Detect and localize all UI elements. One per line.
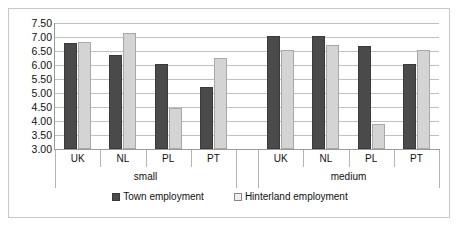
y-tick-label: 4.50: [19, 102, 52, 112]
bar-town-medium-PT: [403, 64, 416, 149]
bar-hinterland-small-UK: [78, 42, 91, 149]
y-tick-label: 6.00: [19, 60, 52, 70]
y-tick-label: 5.00: [19, 88, 52, 98]
group-separator: [236, 150, 237, 188]
group-separator: [439, 150, 440, 188]
y-tick-label: 7.50: [19, 18, 52, 28]
bar-town-small-PT: [200, 87, 213, 149]
y-tick-label: 6.50: [19, 46, 52, 56]
y-axis: 7.507.006.506.005.505.004.504.003.503.00: [19, 23, 52, 149]
category-label-small-NL: NL: [100, 152, 145, 165]
legend-label-town: Town employment: [123, 191, 204, 202]
bar-town-medium-UK: [267, 36, 280, 149]
group-label-small: small: [55, 170, 236, 183]
legend-entry-hinterland: Hinterland employment: [234, 191, 348, 202]
y-tick-label: 3.00: [19, 144, 52, 154]
group-label-medium: medium: [258, 170, 439, 183]
bar-hinterland-medium-UK: [281, 50, 294, 149]
legend-entry-town: Town employment: [112, 191, 204, 202]
bar-hinterland-medium-NL: [326, 45, 339, 149]
chart-legend: Town employmentHinterland employment: [9, 191, 451, 202]
legend-swatch-hinterland-icon: [234, 193, 242, 201]
bar-hinterland-small-PL: [169, 108, 182, 149]
category-label-small-UK: UK: [55, 152, 100, 165]
bar-hinterland-medium-PT: [417, 50, 430, 149]
chart-frame: 7.507.006.506.005.505.004.504.003.503.00…: [8, 8, 450, 218]
bar-town-small-UK: [64, 43, 77, 149]
bar-town-medium-NL: [312, 36, 325, 149]
category-label-medium-UK: UK: [258, 152, 303, 165]
category-axis: smallUKNLPLPTmediumUKNLPLPT: [55, 150, 439, 188]
category-label-medium-PT: PT: [394, 152, 439, 165]
y-tick-label: 4.00: [19, 116, 52, 126]
y-tick-label: 3.50: [19, 130, 52, 140]
bar-town-small-NL: [109, 55, 122, 149]
bar-hinterland-medium-PL: [372, 124, 385, 149]
y-tick-label: 5.50: [19, 74, 52, 84]
category-label-medium-PL: PL: [349, 152, 394, 165]
category-label-small-PT: PT: [191, 152, 236, 165]
bars-layer: [55, 23, 439, 149]
bar-hinterland-small-PT: [214, 58, 227, 149]
bar-town-small-PL: [155, 64, 168, 149]
legend-swatch-town-icon: [112, 193, 120, 201]
legend-label-hinterland: Hinterland employment: [245, 191, 348, 202]
category-label-medium-NL: NL: [303, 152, 348, 165]
y-tick-label: 7.00: [19, 32, 52, 42]
bar-town-medium-PL: [358, 46, 371, 149]
category-label-small-PL: PL: [146, 152, 191, 165]
bar-hinterland-small-NL: [123, 33, 136, 149]
